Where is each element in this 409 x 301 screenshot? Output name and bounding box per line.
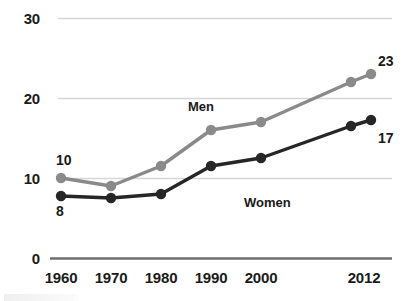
series-men-point — [56, 173, 66, 183]
chart-plot-area — [0, 0, 409, 301]
series-women-point — [156, 189, 166, 199]
series-women-point — [256, 153, 266, 163]
series-women-point — [366, 115, 376, 125]
series-women-point — [206, 161, 216, 171]
series-men-point — [346, 77, 356, 87]
series-men-point — [106, 181, 116, 191]
y-axis-tick-30: 30 — [6, 10, 40, 27]
series-men-point — [256, 117, 266, 127]
gridlines — [50, 19, 392, 259]
series-men-point — [366, 69, 376, 79]
data-label-men-1960: 10 — [56, 152, 72, 168]
data-label-women-1960: 8 — [56, 203, 64, 219]
series-women-point — [56, 191, 66, 201]
y-axis-tick-10: 10 — [6, 170, 40, 187]
y-axis-tick-0: 0 — [6, 250, 40, 267]
line-chart: 30 20 10 0 1960 1970 1980 1990 2000 2012… — [0, 0, 409, 301]
data-label-men-2012: 23 — [378, 53, 394, 69]
series-label-men: Men — [188, 99, 214, 114]
x-axis-tick-2000: 2000 — [231, 269, 291, 286]
x-axis-tick-2012: 2012 — [334, 269, 394, 286]
series-women-point — [106, 193, 116, 203]
y-axis-tick-20: 20 — [6, 90, 40, 107]
bottom-edge-artifact — [4, 294, 78, 301]
data-label-women-2012: 17 — [378, 130, 394, 146]
series-men-point — [156, 161, 166, 171]
series-women-point — [346, 121, 356, 131]
series-men — [56, 69, 376, 191]
series-label-women: Women — [244, 195, 291, 210]
series-men-point — [206, 125, 216, 135]
